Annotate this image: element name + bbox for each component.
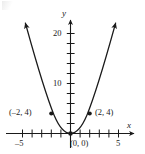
x-tick-label-neg5: –5 <box>15 139 24 148</box>
point-marker-2-4 <box>88 111 92 115</box>
point-marker-neg2-4 <box>49 111 53 115</box>
y-tick-label-10: 10 <box>53 79 62 88</box>
y-tick-label-20: 20 <box>53 29 62 38</box>
x-tick-label-5: 5 <box>116 139 120 148</box>
point-label-origin: (0, 0) <box>70 139 88 148</box>
y-axis-label: y <box>62 9 66 18</box>
x-axis-label: x <box>127 121 131 130</box>
parabola-graph-figure: x y 20 10 –5 5 (–2, 4) (2, 4) (0, 0) <box>0 0 145 154</box>
point-label-2-4: (2, 4) <box>95 108 113 117</box>
coordinate-plane <box>0 0 145 154</box>
point-label-neg2-4: (–2, 4) <box>9 108 32 117</box>
point-marker-origin <box>68 131 73 136</box>
